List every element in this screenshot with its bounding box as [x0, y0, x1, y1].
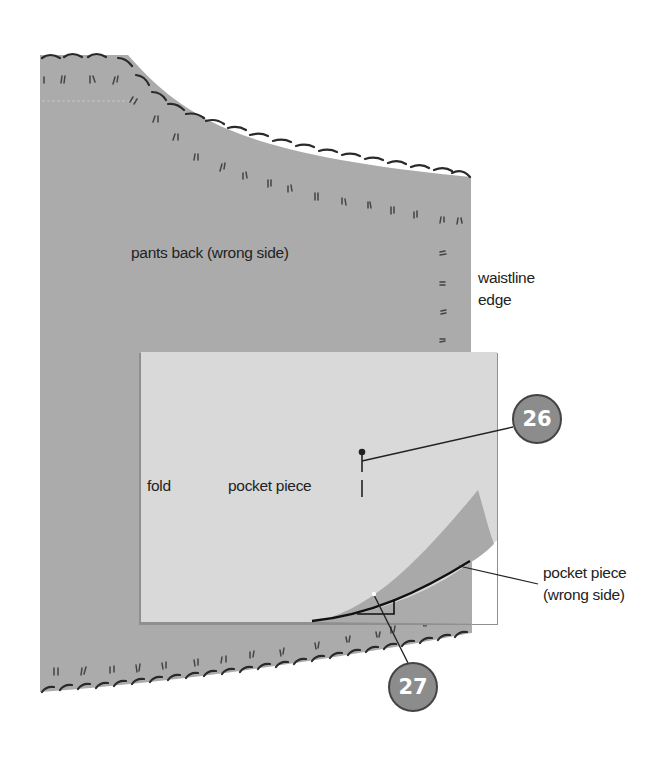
- label-pocket-wrong-side-2: (wrong side): [543, 585, 625, 605]
- illustration: [0, 0, 672, 761]
- callout-badge-27: 27: [388, 662, 438, 712]
- callout-badge-26: 26: [512, 394, 562, 444]
- label-pants-back: pants back (wrong side): [131, 243, 289, 263]
- point-27-dot: [372, 592, 376, 596]
- label-edge: edge: [478, 290, 511, 310]
- label-pocket-wrong-side-1: pocket piece: [543, 563, 626, 583]
- label-pocket-piece: pocket piece: [228, 476, 311, 496]
- pocket-sewing-diagram: pants back (wrong side) waistline edge f…: [0, 0, 672, 761]
- label-waistline: waistline: [478, 268, 535, 288]
- label-fold: fold: [147, 476, 171, 496]
